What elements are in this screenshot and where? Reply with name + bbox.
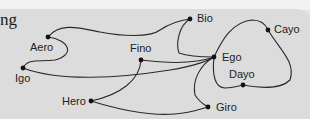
node-bio-dot bbox=[188, 17, 193, 22]
node-ego-label: Ego bbox=[222, 51, 242, 63]
network-graph: AeroBioCayoFinoEgoIgoDayoHeroGiro bbox=[0, 0, 310, 119]
node-giro-dot bbox=[206, 105, 211, 110]
node-fino-label: Fino bbox=[130, 42, 151, 54]
edge-aero-bio bbox=[48, 19, 190, 37]
node-aero-label: Aero bbox=[30, 41, 53, 53]
edge-ego-giro bbox=[194, 57, 214, 107]
node-aero-dot bbox=[46, 35, 51, 40]
edge-bio-ego bbox=[178, 19, 214, 57]
node-hero-dot bbox=[89, 99, 94, 104]
edge-hero-giro bbox=[91, 101, 208, 114]
node-hero-label: Hero bbox=[62, 95, 86, 107]
node-dayo-label: Dayo bbox=[229, 68, 255, 80]
node-fino-dot bbox=[139, 58, 144, 63]
node-bio-label: Bio bbox=[197, 12, 213, 24]
node-cayo-dot bbox=[266, 28, 271, 33]
node-igo-dot bbox=[21, 66, 26, 71]
nodes-group: AeroBioCayoFinoEgoIgoDayoHeroGiro bbox=[15, 12, 300, 113]
node-ego-dot bbox=[212, 55, 217, 60]
node-giro-label: Giro bbox=[216, 101, 237, 113]
edge-fino-hero bbox=[91, 60, 141, 101]
node-cayo-label: Cayo bbox=[274, 23, 300, 35]
node-dayo-dot bbox=[241, 83, 246, 88]
node-igo-label: Igo bbox=[15, 72, 30, 84]
